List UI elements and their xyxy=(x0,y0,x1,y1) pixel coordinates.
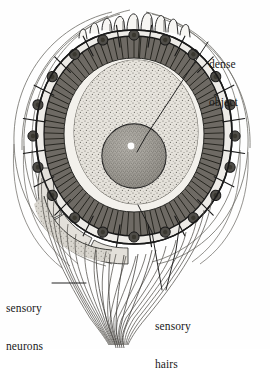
label-sensory-neurons: sensory neurons xyxy=(6,277,43,372)
label-sensory-hairs: sensory hairs xyxy=(155,295,191,372)
dense-object-highlight xyxy=(128,143,135,150)
label-sensory-hairs-line2: hairs xyxy=(155,358,191,371)
label-sensory-neurons-line1: sensory xyxy=(6,302,43,315)
label-dense-object-line1: dense xyxy=(209,58,238,71)
label-dense-object-line2: object xyxy=(209,96,238,109)
label-sensory-neurons-line2: neurons xyxy=(6,340,43,353)
label-sensory-hairs-line1: sensory xyxy=(155,320,191,333)
label-dense-object: dense object xyxy=(209,33,238,133)
